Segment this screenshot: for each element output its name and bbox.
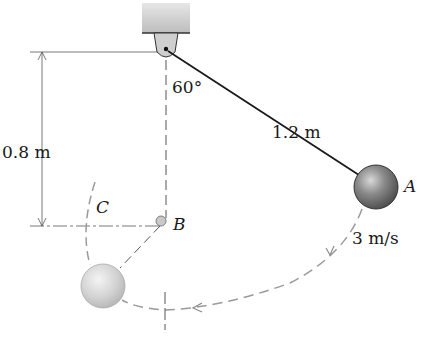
ball-a xyxy=(354,165,398,209)
cord-segment-bc xyxy=(120,226,160,268)
point-c-label: C xyxy=(96,197,109,217)
pendulum-diagram: 0.8 m 60° 1.2 m B C A 3 m/s xyxy=(0,0,436,345)
trajectory-arc-c xyxy=(86,182,95,265)
point-b-label: B xyxy=(172,214,186,234)
angle-label: 60° xyxy=(172,77,202,97)
dimension-0.8m xyxy=(30,52,160,226)
peg-b xyxy=(156,216,166,226)
point-a-label: A xyxy=(402,176,416,196)
speed-label: 3 m/s xyxy=(352,228,399,248)
ball-at-c xyxy=(81,264,125,308)
drop-label: 0.8 m xyxy=(2,142,51,162)
pivot-pin xyxy=(164,47,168,51)
ceiling-support xyxy=(142,3,190,57)
length-label: 1.2 m xyxy=(272,122,321,142)
pendulum-cord xyxy=(168,51,362,177)
